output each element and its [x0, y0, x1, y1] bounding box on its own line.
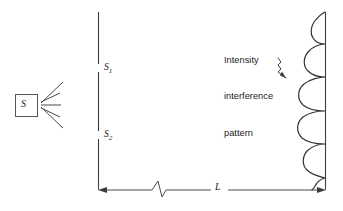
- annotation-line-2: interference: [224, 90, 273, 102]
- distance-label: L: [212, 181, 223, 193]
- intensity-annotation: Intensity interference pattern: [224, 29, 273, 164]
- slit-label-s2: S2: [104, 128, 112, 143]
- intensity-pattern-curve: [298, 12, 325, 190]
- leader-arrowhead: [280, 72, 286, 79]
- annotation-pointer: [278, 58, 286, 78]
- dimension-break-symbol: [152, 181, 166, 197]
- annotation-line-1: Intensity: [224, 54, 273, 66]
- figure-canvas: [0, 0, 343, 211]
- slit-label-s2-subscript: 2: [109, 134, 113, 142]
- slit-label-s1-subscript: 1: [109, 67, 113, 75]
- source-rays: [41, 82, 63, 128]
- dimension-arrowhead-right: [317, 187, 326, 193]
- dimension-arrowhead-left: [98, 187, 107, 193]
- source-box: [16, 95, 38, 117]
- source-label: S: [21, 98, 26, 110]
- slit-label-s1: S1: [104, 61, 112, 76]
- double-slit-figure: S S1 S2 Intensity interference pattern L: [0, 0, 343, 211]
- ray-down-outer: [41, 107, 63, 128]
- ray-up-outer: [41, 82, 63, 103]
- annotation-line-3: pattern: [224, 127, 273, 139]
